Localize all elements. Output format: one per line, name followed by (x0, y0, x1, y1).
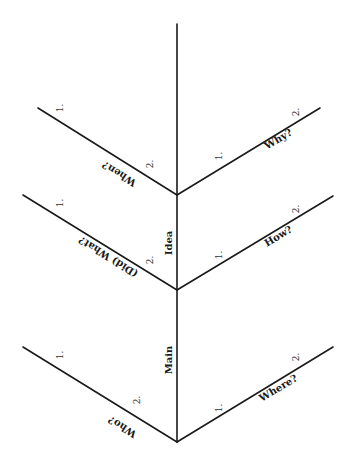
top-left-number-1: 1. (55, 104, 65, 113)
spine-label-main: Main (163, 345, 174, 374)
branch-line-bottom-left (23, 347, 177, 442)
branch-line-top-right (177, 108, 320, 195)
branch-line-bottom-right (177, 347, 333, 442)
bottom-right-label-where: Where? (256, 372, 299, 404)
mid-left-number-2: 2. (145, 256, 155, 265)
bottom-right-number-1: 1. (214, 404, 224, 413)
spine-label-idea: Idea (163, 230, 174, 255)
mid-right-label-how: How? (262, 223, 294, 248)
bottom-left-label-who: Who? (106, 414, 139, 440)
top-right-label-why: Why? (262, 126, 295, 152)
top-left-label-when: When? (100, 159, 139, 189)
top-left-number-2: 2. (145, 160, 155, 169)
branch-line-top-left (38, 108, 177, 195)
branch-line-mid-right (177, 196, 333, 290)
top-right-number-2: 2. (291, 108, 301, 117)
mid-right-number-1: 1. (214, 251, 224, 260)
main-idea-diagram: Idea Main 1. 2. When? 1. 2. Why? 1. 2. (… (0, 0, 355, 461)
branch-line-mid-left (23, 195, 177, 290)
top-right-number-1: 1. (214, 152, 224, 161)
bottom-left-number-2: 2. (132, 396, 142, 405)
mid-left-number-1: 1. (55, 199, 65, 208)
bottom-right-number-2: 2. (291, 353, 301, 362)
mid-right-number-2: 2. (291, 205, 301, 214)
mid-left-label-did-what: (Did) What? (76, 234, 140, 279)
bottom-left-number-1: 1. (55, 351, 65, 360)
